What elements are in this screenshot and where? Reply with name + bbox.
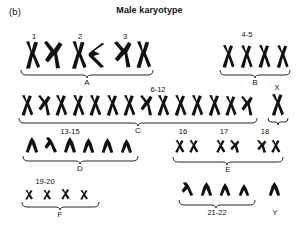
group-label-c: C [135,127,141,135]
group-label-a: A [84,79,89,87]
pair-label-2: 2 [78,33,82,41]
chromosome-15a [101,138,114,229]
group-label-f: F [58,211,63,219]
brace-group-d [22,155,139,164]
brace-group-a [20,69,154,78]
pair-label-21-22: 21-22 [207,209,226,217]
brace-group-c [18,117,258,126]
pair-label-13-15: 13-15 [60,128,79,136]
karyotype-figure: (b) Male karyotype 1 2 3 4-5 [0,0,299,229]
brace-group-b [219,69,291,78]
brace-group-g [178,199,256,208]
pair-label-17: 17 [220,128,228,136]
chromosome-15b [120,139,133,229]
chromosome-18a [256,140,267,229]
pair-label-x: X [274,84,279,92]
brace-group-e [172,156,284,165]
chromosome-y [268,182,281,229]
chromosome-9b [139,95,153,229]
brace-chromosome-x [267,117,289,125]
group-label-b: B [252,79,257,87]
pair-label-19-20: 19-20 [35,178,54,186]
chromosome-10a [156,95,170,229]
pair-label-1: 1 [32,33,36,41]
group-label-d: D [77,165,83,173]
group-label-e: E [225,166,230,174]
brace-group-f [21,201,100,210]
pair-label-4-5: 4-5 [242,31,253,39]
pair-label-3: 3 [123,33,127,41]
pair-label-18: 18 [261,128,269,136]
pair-label-6-12: 6-12 [150,86,165,94]
pair-label-16: 16 [179,128,187,136]
pair-label-y: Y [272,209,277,217]
figure-title: Male karyotype [0,5,299,15]
